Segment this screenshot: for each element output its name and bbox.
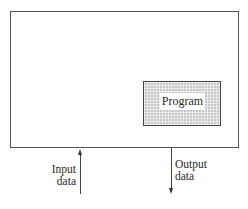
output-label-line1: Output: [175, 158, 225, 170]
input-arrow-line: [80, 154, 81, 194]
output-data-label: Output data: [175, 158, 225, 182]
program-label: Program: [160, 93, 205, 110]
input-label-line1: Input: [40, 163, 76, 175]
input-data-label: Input data: [40, 163, 76, 187]
input-arrow-head-icon: [78, 149, 82, 155]
output-arrow-head-icon: [169, 188, 173, 194]
output-arrow-line: [171, 148, 172, 188]
computer-box: [10, 11, 239, 148]
input-label-line2: data: [40, 175, 76, 187]
output-label-line2: data: [175, 170, 225, 182]
